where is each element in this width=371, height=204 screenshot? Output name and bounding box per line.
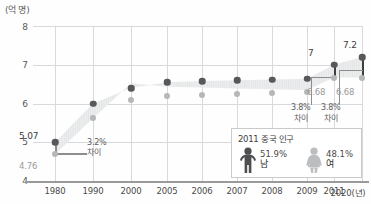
legend-entry-male: 51.9% 남 [238, 146, 287, 174]
gridline-x-2020 [362, 26, 363, 181]
x-axis-baseline [25, 181, 369, 183]
gridline-y-8 [33, 26, 363, 27]
y-tick-8: 8 [6, 22, 28, 32]
data-point-female-2020[interactable] [359, 75, 365, 81]
gridline-x-1980 [55, 26, 56, 181]
x-tick-2009: 2009 [297, 186, 318, 196]
label-diff-word-2020: 차이 [324, 114, 338, 123]
data-point-female-2007[interactable] [234, 91, 240, 97]
x-tick-2000: 2000 [121, 186, 142, 196]
legend-male-label: 남 [260, 160, 287, 170]
data-point-male-2005[interactable] [164, 79, 171, 86]
x-tick-2008: 2008 [262, 186, 283, 196]
gridline-x-2005 [167, 26, 168, 181]
data-point-female-2000[interactable] [128, 97, 134, 103]
legend-female-label: 여 [326, 160, 353, 170]
data-point-female-2008[interactable] [269, 90, 275, 96]
connector-2020-horizontal [339, 70, 363, 71]
legend-title: 2011 중국 인구 [238, 132, 294, 144]
y-tick-6: 6 [6, 99, 28, 109]
gridline-x-2006 [202, 26, 203, 181]
female-figure-icon [304, 146, 324, 174]
label-diff-word-1980: 차이 [87, 148, 101, 157]
label-female-2020: 6.68 [336, 87, 354, 97]
data-point-female-2005[interactable] [164, 93, 170, 99]
gridline-y-7 [33, 65, 363, 66]
legend-box: 2011 중국 인구 51.9% 남 48.1% 여 [231, 128, 362, 178]
data-point-female-2011[interactable] [331, 75, 337, 81]
data-point-female-1980[interactable] [52, 151, 58, 157]
connector-1980-horizontal [55, 153, 87, 154]
data-point-male-1980[interactable] [52, 139, 59, 146]
x-tick-1980: 1980 [45, 186, 66, 196]
data-point-male-2008[interactable] [269, 76, 276, 83]
male-figure-icon [238, 146, 258, 174]
label-diff-word-2011: 차이 [294, 114, 308, 123]
label-diff-pct-1980: 3.2% [87, 138, 107, 147]
data-point-male-2000[interactable] [128, 85, 135, 92]
x-tick-2005: 2005 [157, 186, 178, 196]
label-diff-pct-2011: 3.8% [291, 103, 311, 112]
label-diff-pct-2020: 3.8% [321, 103, 341, 112]
data-point-male-2009[interactable] [304, 76, 311, 83]
population-gender-chart: (억 명) 8 7 6 5 4 [0, 0, 371, 204]
x-tick-2007: 2007 [227, 186, 248, 196]
data-point-female-2006[interactable] [199, 92, 205, 98]
y-tick-7: 7 [6, 60, 28, 70]
label-male-2011: 7 [308, 48, 314, 58]
data-point-female-1990[interactable] [90, 115, 96, 121]
data-point-male-1990[interactable] [90, 100, 97, 107]
label-female-1980: 4.76 [19, 161, 37, 171]
x-tick-2020: 2020(년) [331, 186, 366, 198]
x-tick-2006: 2006 [192, 186, 213, 196]
x-tick-1990: 1990 [83, 186, 104, 196]
legend-entry-female: 48.1% 여 [304, 146, 353, 174]
data-point-male-2020[interactable] [359, 54, 366, 61]
gridline-y-6 [33, 104, 363, 105]
label-male-1980: 5.07 [19, 131, 38, 141]
data-point-male-2006[interactable] [199, 78, 206, 85]
label-male-2020: 7.2 [343, 40, 357, 50]
gridline-x-2000 [131, 26, 132, 181]
y-axis-unit-label: (억 명) [5, 3, 29, 16]
label-female-2011: 6.68 [307, 87, 325, 97]
data-point-male-2007[interactable] [234, 77, 241, 84]
data-point-male-2011[interactable] [331, 62, 338, 69]
